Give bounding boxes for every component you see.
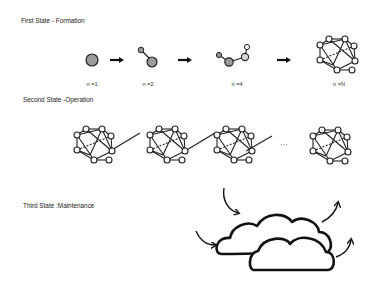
node-group-4 — [216, 44, 249, 66]
node-single — [86, 54, 98, 66]
right-arrow-icon — [110, 57, 124, 63]
network-graph — [317, 36, 358, 73]
cloud-front — [250, 238, 334, 270]
right-arrow-icon — [277, 57, 291, 63]
network-graph — [147, 126, 188, 163]
right-arrow-icon — [178, 57, 192, 63]
network-chain — [74, 126, 351, 164]
network-graph — [214, 126, 255, 163]
network-graph — [310, 127, 351, 164]
node-pair — [138, 47, 157, 67]
network-graph — [74, 126, 115, 163]
